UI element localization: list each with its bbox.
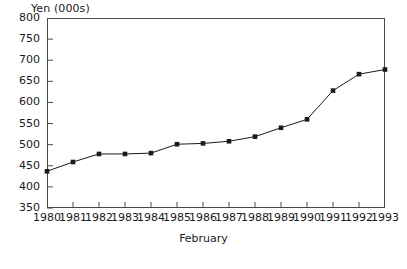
x-axis-tick-label: 1980: [33, 211, 61, 224]
data-point-marker: [331, 88, 336, 93]
x-axis-tick-label: 1990: [293, 211, 321, 224]
x-axis-tick-label: 1985: [163, 211, 191, 224]
y-axis-tick-label: 400: [0, 180, 40, 193]
x-axis-tick-label: 1986: [189, 211, 217, 224]
x-axis-tick-label: 1981: [59, 211, 87, 224]
chart-canvas: [0, 0, 407, 269]
data-point-marker: [175, 142, 180, 147]
y-axis-tick-label: 700: [0, 53, 40, 66]
data-point-marker: [357, 72, 362, 77]
x-axis-tick-label: 1991: [319, 211, 347, 224]
x-axis-tick-label: 1984: [137, 211, 165, 224]
data-point-marker: [383, 67, 388, 72]
y-axis-tick-label: 450: [0, 159, 40, 172]
chart-screenshot: Yen (000s) 80075070065060055050045040035…: [0, 0, 407, 269]
x-axis-tick-label: 1982: [85, 211, 113, 224]
data-point-marker: [45, 169, 50, 174]
y-axis-tick-label: 800: [0, 11, 40, 24]
data-point-marker: [305, 117, 310, 122]
x-axis-ticks: [73, 202, 359, 208]
x-axis-tick-label: 1989: [267, 211, 295, 224]
y-axis-tick-label: 550: [0, 117, 40, 130]
y-axis-tick-label: 600: [0, 95, 40, 108]
data-point-marker: [123, 152, 128, 157]
y-axis-ticks: [47, 39, 53, 208]
series-markers-yen: [45, 67, 388, 173]
x-axis-tick-label: 1988: [241, 211, 269, 224]
data-point-marker: [71, 160, 76, 165]
y-axis-tick-label: 650: [0, 74, 40, 87]
data-point-marker: [97, 152, 102, 157]
x-axis-tick-label: 1992: [345, 211, 373, 224]
y-axis-tick-label: 500: [0, 138, 40, 151]
x-axis-title: February: [0, 232, 407, 245]
x-axis-tick-label: 1983: [111, 211, 139, 224]
data-point-marker: [201, 141, 206, 146]
data-point-marker: [149, 151, 154, 156]
data-point-marker: [227, 139, 232, 144]
data-point-marker: [279, 125, 284, 130]
x-axis-tick-label: 1987: [215, 211, 243, 224]
x-axis-tick-label: 1993: [371, 211, 399, 224]
y-axis-tick-label: 750: [0, 32, 40, 45]
data-point-marker: [253, 134, 258, 139]
